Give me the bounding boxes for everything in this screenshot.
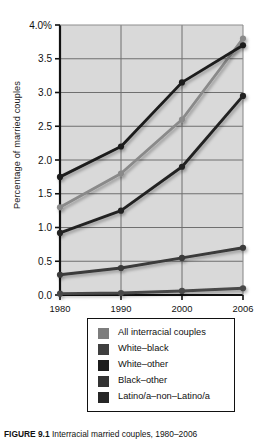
svg-text:0.0: 0.0 xyxy=(38,290,52,301)
svg-text:4.0%: 4.0% xyxy=(29,20,52,31)
svg-text:0.5: 0.5 xyxy=(38,256,52,267)
legend-item-label: White–other xyxy=(118,360,168,369)
legend-item: Latino/a–non–Latino/a xyxy=(94,389,230,405)
svg-text:2006: 2006 xyxy=(233,303,254,312)
svg-text:1980: 1980 xyxy=(50,303,71,312)
legend-item-label: White–black xyxy=(118,344,169,353)
legend-item: Black–other xyxy=(94,373,230,389)
legend-swatch-icon xyxy=(98,360,109,371)
x-axis-ticks: 1980199020002006 xyxy=(50,295,254,312)
svg-text:1.0: 1.0 xyxy=(38,222,52,233)
svg-text:1.5: 1.5 xyxy=(38,188,52,199)
chart-legend: All interracial couples White–black Whit… xyxy=(87,318,235,412)
figure-caption-text: Interracial married couples, 1980–2006 xyxy=(52,429,197,439)
figure-container: Percentage of married couples 0.00.51.01… xyxy=(0,0,268,440)
legend-swatch-icon xyxy=(98,392,109,403)
plot-svg: 0.00.51.01.52.02.53.03.54.0% 19801990200… xyxy=(0,0,268,312)
legend-item-label: All interracial couples xyxy=(118,328,206,337)
y-axis-ticks: 0.00.51.01.52.02.53.03.54.0% xyxy=(29,20,60,301)
legend-swatch-icon xyxy=(98,376,109,387)
legend-item: White–other xyxy=(94,357,230,373)
svg-text:1990: 1990 xyxy=(111,303,132,312)
legend-item: White–black xyxy=(94,341,230,357)
svg-text:3.0: 3.0 xyxy=(38,87,52,98)
svg-text:2.0: 2.0 xyxy=(38,155,52,166)
figure-caption-label: FIGURE 9.1 xyxy=(4,429,50,439)
legend-item-label: Latino/a–non–Latino/a xyxy=(118,392,210,401)
svg-text:2.5: 2.5 xyxy=(38,121,52,132)
legend-swatch-icon xyxy=(98,328,109,339)
legend-swatch-icon xyxy=(98,344,109,355)
figure-caption: FIGURE 9.1 Interracial married couples, … xyxy=(4,429,266,440)
line-chart: Percentage of married couples 0.00.51.01… xyxy=(0,0,268,312)
legend-item: All interracial couples xyxy=(94,325,230,341)
legend-item-label: Black–other xyxy=(118,376,167,385)
svg-text:2000: 2000 xyxy=(172,303,193,312)
svg-text:3.5: 3.5 xyxy=(38,53,52,64)
